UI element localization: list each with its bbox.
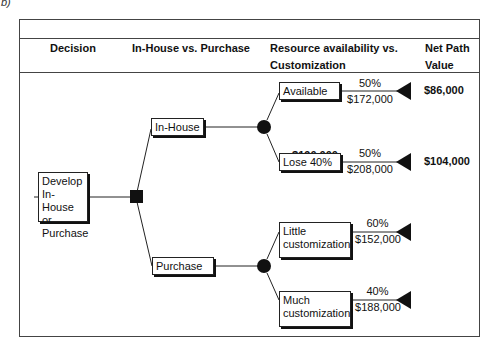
- branch-inhouse-box: In-House: [151, 118, 204, 136]
- root-decision-box: Develop In-House or Purchase: [38, 172, 88, 222]
- outcome-much-probability: 40%: [355, 285, 400, 297]
- outcome-little-probability: 60%: [355, 217, 400, 229]
- outcome-available-net-value: $86,000: [424, 84, 474, 96]
- outcome-much-customization-box: Much customization: [279, 291, 351, 327]
- terminal-lose40-icon: [396, 153, 411, 171]
- branch-purchase-box: Purchase: [152, 257, 214, 275]
- outcome-lose40-probability: 50%: [345, 147, 395, 159]
- outcome-available-cost: $172,000: [343, 93, 397, 105]
- outcome-little-cost: $152,000: [351, 233, 405, 245]
- terminal-available-icon: [396, 82, 411, 100]
- decision-node-icon: [130, 190, 143, 203]
- outcome-lose40-box: Lose 40%: [279, 153, 341, 171]
- outcome-available-probability: 50%: [345, 77, 395, 89]
- outcome-little-customization-box: Little customization: [279, 222, 351, 258]
- chance-node-purchase-icon: [257, 259, 271, 273]
- outcome-lose40-cost: $208,000: [343, 163, 397, 175]
- chance-node-inhouse-icon: [257, 120, 271, 134]
- outcome-lose40-net-value: $104,000: [424, 155, 479, 167]
- outcome-available-box: Available: [279, 82, 340, 100]
- outcome-much-cost: $188,000: [351, 301, 405, 313]
